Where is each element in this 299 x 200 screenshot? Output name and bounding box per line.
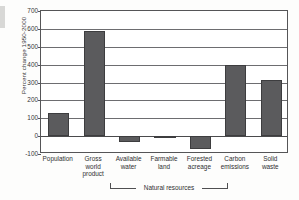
x-axis-label-line: Gross xyxy=(75,155,110,163)
y-tick-label-400: 400 xyxy=(18,60,38,67)
y-tick-label--100: -100 xyxy=(18,150,38,157)
y-tick-label-700: 700 xyxy=(18,7,38,14)
bar xyxy=(48,113,69,136)
x-axis-label-line: emissions xyxy=(217,163,252,171)
x-axis-label-line: Solid xyxy=(253,155,288,163)
bracket-tick-right xyxy=(227,183,228,189)
bar-series xyxy=(41,11,287,152)
y-tick-label-300: 300 xyxy=(18,78,38,85)
bar xyxy=(190,136,211,149)
x-axis-label-line: world xyxy=(75,163,110,171)
x-axis-label-line: Population xyxy=(40,155,75,163)
x-axis-label: Availablewater xyxy=(111,155,146,170)
bar xyxy=(261,80,282,136)
x-axis-label-line: Carbon xyxy=(217,155,252,163)
x-axis-label: Farmableland xyxy=(146,155,181,170)
bar xyxy=(84,31,105,136)
x-axis-label-line: Available xyxy=(111,155,146,163)
bar xyxy=(154,136,175,138)
x-axis-label-line: product xyxy=(75,170,110,178)
x-axis-label-line: Farmable xyxy=(146,155,181,163)
x-axis-label-line: Forested xyxy=(182,155,217,163)
bracket-line-right xyxy=(202,188,228,189)
x-axis-label: Carbonemissions xyxy=(217,155,252,170)
x-axis-label: Population xyxy=(40,155,75,163)
x-axis-label-line: waste xyxy=(253,163,288,171)
plot-area xyxy=(40,10,288,153)
x-axis-label-line: land xyxy=(146,163,181,171)
natural-resources-bracket: Natural resources xyxy=(110,183,228,195)
x-axis-label-line: water xyxy=(111,163,146,171)
bar xyxy=(225,65,246,137)
y-tick-label-0: 0 xyxy=(18,132,38,139)
x-axis-category-labels: PopulationGrossworldproductAvailablewate… xyxy=(40,155,288,179)
chart-figure: Percent change 1950-2000 700600500400300… xyxy=(0,0,299,200)
y-tick-label-100: 100 xyxy=(18,114,38,121)
y-axis-tick-labels: 7006005004003002001000-100 xyxy=(18,10,38,153)
y-tick-label-600: 600 xyxy=(18,24,38,31)
x-axis-label: Forestedacreage xyxy=(182,155,217,170)
x-axis-label: Solidwaste xyxy=(253,155,288,170)
bar xyxy=(119,136,140,142)
y-tick-label-500: 500 xyxy=(18,42,38,49)
x-axis-label-line: acreage xyxy=(182,163,217,171)
scan-edge-artifact xyxy=(0,6,5,28)
x-axis-label: Grossworldproduct xyxy=(75,155,110,178)
y-tick-label-200: 200 xyxy=(18,96,38,103)
